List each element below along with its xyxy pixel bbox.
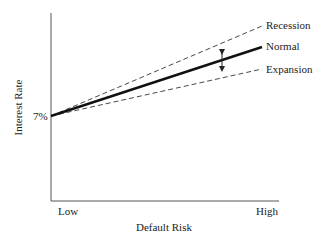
line-expansion [51, 69, 262, 116]
legend-recession: Recession [266, 20, 311, 31]
line-recession [51, 26, 262, 116]
line-normal [51, 47, 262, 116]
legend-normal: Normal [266, 41, 300, 52]
x-tick-low: Low [58, 206, 78, 217]
y-axis-label: Interest Rate [13, 68, 24, 148]
x-tick-high: High [256, 206, 278, 217]
x-axis-label: Default Risk [136, 222, 192, 233]
legend-expansion: Expansion [266, 64, 312, 75]
chart-canvas [0, 0, 326, 239]
y-tick-7pct: 7% [33, 111, 48, 122]
